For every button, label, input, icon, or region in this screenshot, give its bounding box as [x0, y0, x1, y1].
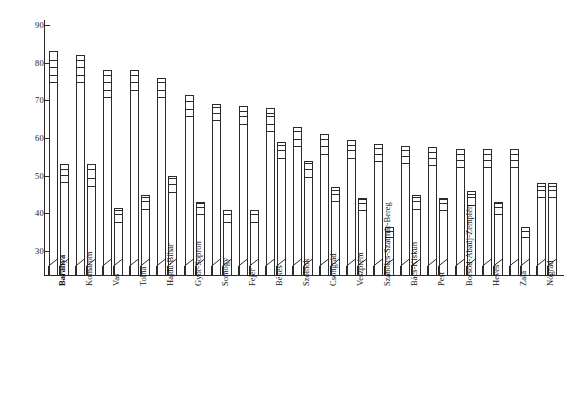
bar-rung-mark [49, 82, 58, 83]
bar-rung-mark [157, 82, 166, 83]
bar-rung-mark [130, 90, 139, 91]
bar-rung-mark [456, 160, 465, 161]
x-axis-category-label: Bács-Kiskun [410, 242, 419, 286]
bar[interactable] [483, 149, 492, 275]
bar-rung-mark [60, 175, 69, 176]
bar-rung-mark [347, 145, 356, 146]
chart-canvas: 30405060708090 BaranyaKomáromVasTolnaHaj… [0, 0, 582, 400]
bar-rung-mark [239, 116, 248, 117]
bar-rung-mark [157, 90, 166, 91]
bar-rung-mark [103, 90, 112, 91]
bar-rung-mark [510, 167, 519, 168]
bar-rung-mark [439, 203, 448, 204]
bar-rung-mark [494, 214, 503, 215]
bar-rung-mark [266, 113, 275, 114]
bar-rung-mark [141, 197, 150, 198]
bar[interactable] [239, 106, 248, 275]
bar-rung-mark [212, 120, 221, 121]
bar-rung-mark [320, 139, 329, 140]
x-axis-category-label: Somogy [221, 258, 230, 286]
bar[interactable] [103, 70, 112, 275]
bar-rung-mark [76, 60, 85, 61]
bar-rung-mark [467, 194, 476, 195]
y-axis-tick-label: 90 [8, 21, 44, 29]
y-axis-tick-label: 50 [8, 172, 44, 180]
bar-rung-mark [358, 199, 367, 200]
bar-rung-mark [239, 124, 248, 125]
x-axis-category-label: Tolna [139, 267, 148, 286]
plot-area: 30405060708090 BaranyaKomáromVasTolnaHaj… [0, 0, 582, 400]
y-axis-tick-label-wrap: 30 [0, 247, 44, 255]
x-axis-category-label: Heves [492, 265, 501, 286]
bar-rung-mark [212, 107, 221, 108]
y-axis-tick [44, 25, 50, 26]
bar-rung-mark [439, 210, 448, 211]
bar-rung-mark [331, 201, 340, 202]
bar-rung-mark [141, 209, 150, 210]
x-axis-category-label: Pest [437, 272, 446, 286]
bar-rung-mark [196, 207, 205, 208]
bar-rung-mark [277, 150, 286, 151]
bar-rung-mark [439, 199, 448, 200]
bar-rung-mark [467, 197, 476, 198]
bar[interactable] [250, 210, 259, 275]
bar-rung-mark [548, 186, 557, 187]
x-axis-category-label: Szabolcs-Szatmár-Bereg [383, 202, 392, 286]
bar-rung-mark [374, 148, 383, 149]
bar-rung-mark [250, 214, 259, 215]
bar[interactable] [130, 70, 139, 275]
bar-rung-mark [196, 214, 205, 215]
bar[interactable] [521, 227, 530, 275]
bar[interactable] [439, 198, 448, 275]
bar-rung-mark [103, 97, 112, 98]
bar-rung-mark [239, 111, 248, 112]
bar-rung-mark [304, 169, 313, 170]
bar[interactable] [510, 149, 519, 275]
bar-rung-mark [331, 194, 340, 195]
bar-rung-mark [76, 75, 85, 76]
x-axis-category-label: Borsod-Abaúj-Zemplén [465, 205, 474, 286]
bar-rung-mark [293, 139, 302, 140]
bar-rung-mark [320, 146, 329, 147]
bar-rung-mark [114, 214, 123, 215]
bar-rung-mark [494, 203, 503, 204]
bar-rung-mark [277, 158, 286, 159]
bar[interactable] [293, 127, 302, 275]
bar-rung-mark [412, 201, 421, 202]
bar-rung-mark [76, 67, 85, 68]
bar-rung-mark [130, 75, 139, 76]
bar-rung-mark [157, 97, 166, 98]
x-axis-category-label: Nógrád [546, 261, 555, 287]
y-axis-tick-label: 40 [8, 209, 44, 217]
x-axis-category-label: Veszprém [356, 252, 365, 286]
x-axis-category-label: Baranya [58, 255, 67, 286]
bar[interactable] [76, 55, 85, 275]
bar-rung-mark [412, 209, 421, 210]
bar-rung-mark [87, 178, 96, 179]
bar-rung-mark [483, 154, 492, 155]
bar-rung-mark [428, 165, 437, 166]
bar[interactable] [212, 104, 221, 275]
bar[interactable] [141, 195, 150, 276]
x-axis-category-label: Vas [112, 274, 121, 286]
bar-rung-mark [320, 154, 329, 155]
bar-rung-mark [212, 113, 221, 114]
bar-rung-mark [401, 156, 410, 157]
bar-rung-mark [548, 190, 557, 191]
bar[interactable] [114, 208, 123, 275]
bar-rung-mark [168, 184, 177, 185]
bar[interactable] [49, 51, 58, 275]
bar-rung-mark [196, 203, 205, 204]
bar[interactable] [277, 142, 286, 275]
y-axis-tick-label-wrap: 70 [0, 96, 44, 104]
bar[interactable] [266, 108, 275, 275]
bar-rung-mark [510, 154, 519, 155]
bar-rung-mark [428, 158, 437, 159]
bar-rung-mark [49, 67, 58, 68]
bar-rung-mark [49, 60, 58, 61]
bar[interactable] [428, 147, 437, 275]
bar-rung-mark [103, 75, 112, 76]
y-axis-tick-label: 80 [8, 59, 44, 67]
bar-rung-mark [537, 197, 546, 198]
bar-rung-mark [304, 177, 313, 178]
